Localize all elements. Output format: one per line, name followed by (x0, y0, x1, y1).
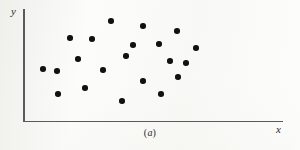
scatter-point (108, 18, 114, 24)
plot-area (24, 9, 283, 121)
scatter-point (140, 23, 146, 29)
scatter-point (40, 66, 46, 72)
scatter-point (156, 41, 162, 47)
scatter-point (175, 74, 181, 80)
scatter-point (130, 42, 136, 48)
scatter-point (89, 36, 95, 42)
scatter-point (67, 35, 73, 41)
scatter-point (193, 45, 199, 51)
scatter-point (55, 91, 61, 97)
scatter-plot-figure: y x (a) (0, 0, 300, 150)
scatter-point (158, 91, 164, 97)
scatter-point (100, 67, 106, 73)
scatter-point (140, 78, 146, 84)
y-axis-label: y (11, 6, 16, 17)
scatter-point (54, 68, 60, 74)
scatter-point (75, 56, 81, 62)
scatter-point (82, 85, 88, 91)
scatter-point (119, 98, 125, 104)
scatter-point (183, 60, 189, 66)
figure-caption: (a) (0, 127, 300, 138)
caption-close-paren: ) (153, 127, 157, 138)
scatter-point (167, 58, 173, 64)
scatter-point (123, 53, 129, 59)
scatter-point (174, 28, 180, 34)
